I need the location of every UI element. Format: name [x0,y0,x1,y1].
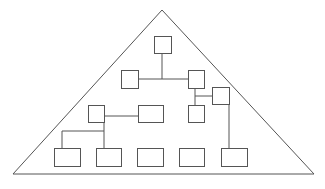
node-box-n-r2-left [122,71,139,89]
node-box-n-b1 [55,149,81,167]
node-boxes [55,37,248,167]
node-box-n-top [155,37,172,54]
node-box-n-b5 [222,149,248,167]
node-box-n-b2 [97,149,122,167]
node-box-n-b3 [138,149,164,167]
node-box-n-r3-left [89,106,105,123]
node-box-n-r3-right [189,106,205,123]
node-box-n-r3-mid [139,106,164,123]
hierarchy-diagram [0,0,325,189]
node-box-n-side [213,88,230,105]
connector-lines [62,53,229,148]
node-box-n-r2-right [189,71,205,89]
node-box-n-b4 [180,149,205,167]
